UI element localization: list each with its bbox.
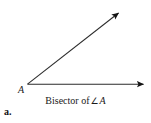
figure-caption: Bisector of∠A <box>0 95 151 107</box>
geometry-figure: A Bisector of∠A a. <box>0 0 151 123</box>
bisector-ray <box>28 13 119 84</box>
caption-prefix-text: Bisector of <box>45 95 89 106</box>
vertex-label-a: A <box>18 84 24 95</box>
angle-symbol-icon: ∠ <box>89 96 99 106</box>
caption-angle-name: A <box>100 95 106 106</box>
part-label-a: a. <box>4 106 12 118</box>
